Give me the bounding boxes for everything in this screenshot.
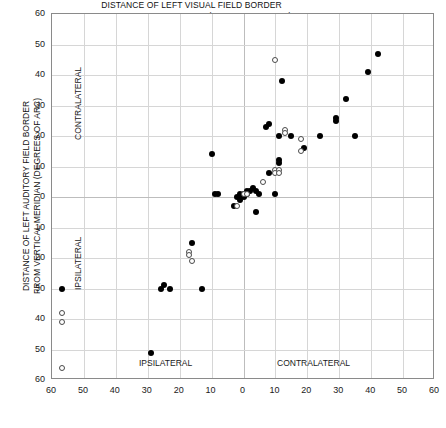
y-axis-title-line2: FROM VERTICAL MERIDIAN (DEGREES OF ARC) bbox=[32, 98, 43, 294]
data-point-filled bbox=[189, 240, 195, 246]
data-point-filled bbox=[263, 124, 269, 130]
data-point-open bbox=[282, 130, 288, 136]
gridline-horizontal bbox=[52, 106, 433, 107]
x-axis-title-line1: DISTANCE OF LEFT VISUAL FIELD BORDER bbox=[0, 0, 383, 11]
data-point-open bbox=[298, 136, 304, 142]
data-point-open bbox=[59, 365, 65, 371]
gridline-horizontal bbox=[52, 350, 433, 351]
data-point-filled bbox=[59, 286, 65, 292]
plot-area bbox=[51, 13, 434, 379]
y-tick-label: 50 bbox=[25, 344, 45, 353]
x-region-label-ipsilateral: IPSILATERAL bbox=[139, 358, 192, 368]
data-point-filled bbox=[279, 78, 285, 84]
data-point-filled bbox=[276, 133, 282, 139]
y-tick-label: 50 bbox=[25, 39, 45, 48]
data-point-open bbox=[59, 319, 65, 325]
x-tick-label: 20 bbox=[174, 386, 184, 395]
y-region-label-contralateral: CONTRALATERAL bbox=[73, 67, 83, 140]
gridline-vertical bbox=[116, 14, 117, 378]
gridline-horizontal bbox=[52, 228, 433, 229]
data-point-open bbox=[189, 258, 195, 264]
data-point-filled bbox=[317, 133, 323, 139]
x-tick-label: 60 bbox=[429, 386, 439, 395]
data-point-open bbox=[59, 310, 65, 316]
x-tick-label: 0 bbox=[240, 386, 245, 395]
data-point-filled bbox=[158, 286, 164, 292]
data-point-filled bbox=[209, 151, 215, 157]
data-point-filled bbox=[343, 96, 349, 102]
data-point-filled bbox=[365, 69, 371, 75]
data-point-open bbox=[244, 191, 250, 197]
scatter-figure: 6050403020100102030405060 60504030201001… bbox=[0, 0, 446, 428]
data-point-open bbox=[298, 148, 304, 154]
data-point-open bbox=[260, 179, 266, 185]
gridline-vertical bbox=[84, 14, 85, 378]
data-point-filled bbox=[212, 191, 218, 197]
gridline-horizontal bbox=[52, 258, 433, 259]
gridline-vertical bbox=[371, 14, 372, 378]
gridline-horizontal bbox=[52, 45, 433, 46]
x-tick-label: 40 bbox=[365, 386, 375, 395]
data-point-filled bbox=[288, 133, 294, 139]
gridline-horizontal bbox=[52, 167, 433, 168]
x-tick-label: 10 bbox=[206, 386, 216, 395]
x-tick-label: 30 bbox=[142, 386, 152, 395]
gridline-horizontal bbox=[52, 319, 433, 320]
x-tick-label: 30 bbox=[333, 386, 343, 395]
data-point-open bbox=[276, 170, 282, 176]
x-tick-label: 20 bbox=[301, 386, 311, 395]
x-tick-label: 60 bbox=[46, 386, 56, 395]
y-region-label-ipsilateral: IPSILATERAL bbox=[73, 237, 83, 290]
data-point-open bbox=[234, 203, 240, 209]
gridline-horizontal bbox=[52, 136, 433, 137]
y-tick-label: 40 bbox=[25, 70, 45, 79]
data-point-filled bbox=[167, 286, 173, 292]
y-tick-label: 40 bbox=[25, 314, 45, 323]
data-point-filled bbox=[333, 118, 339, 124]
x-tick-label: 50 bbox=[78, 386, 88, 395]
x-tick-label: 40 bbox=[110, 386, 120, 395]
gridline-vertical bbox=[339, 14, 340, 378]
y-tick-label: 60 bbox=[25, 9, 45, 18]
x-tick-label: 10 bbox=[269, 386, 279, 395]
data-point-filled bbox=[253, 209, 259, 215]
gridline-vertical bbox=[307, 14, 308, 378]
data-point-open bbox=[272, 57, 278, 63]
y-axis-title-line1: DISTANCE OF LEFT AUDITORY FIELD BORDER bbox=[21, 101, 32, 291]
gridline-horizontal bbox=[52, 75, 433, 76]
data-point-filled bbox=[375, 51, 381, 57]
gridline-vertical bbox=[148, 14, 149, 378]
gridline-horizontal bbox=[52, 289, 433, 290]
x-tick-label: 50 bbox=[397, 386, 407, 395]
data-point-filled bbox=[352, 133, 358, 139]
data-point-filled bbox=[199, 286, 205, 292]
data-point-filled bbox=[266, 170, 272, 176]
x-region-label-contralateral: CONTRALATERAL bbox=[277, 358, 350, 368]
gridline-vertical bbox=[180, 14, 181, 378]
gridline-vertical bbox=[403, 14, 404, 378]
data-point-filled bbox=[148, 350, 154, 356]
y-tick-label: 60 bbox=[25, 375, 45, 384]
